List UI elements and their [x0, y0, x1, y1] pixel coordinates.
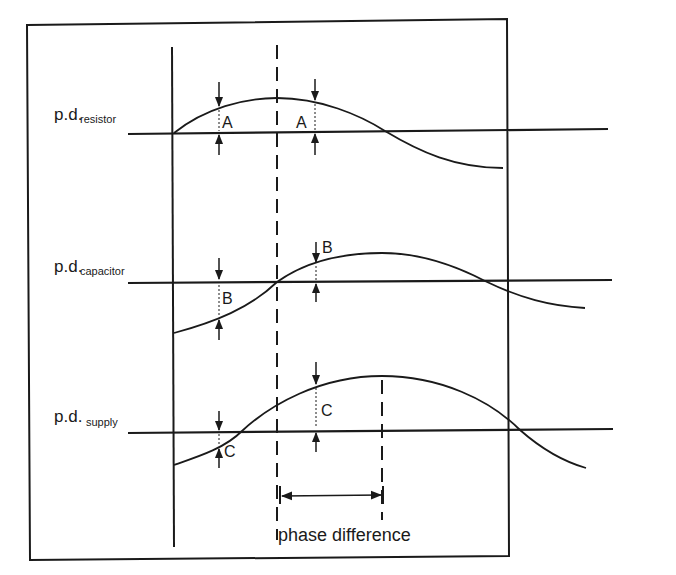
origin-axis — [172, 47, 174, 547]
double-arrow-icon — [282, 495, 381, 496]
baseline-supply — [128, 429, 613, 433]
marker-a-right-label: A — [296, 114, 307, 131]
marker-a-left-label: A — [222, 114, 233, 131]
baseline-resistor — [128, 129, 608, 134]
phase-difference-label: phase difference — [278, 525, 411, 545]
curve-capacitor — [174, 253, 585, 333]
label-capacitor-main: p.d. — [54, 257, 82, 276]
marker-c-right-label: C — [321, 402, 333, 419]
phase-difference-annotation: phase difference — [278, 486, 411, 545]
label-supply-main: p.d. — [54, 407, 82, 426]
phase-difference-diagram: p.d. resistor A A p.d. capacitor B B p.d… — [0, 0, 676, 575]
trace-supply: p.d. supply C C — [54, 362, 613, 468]
trace-capacitor: p.d. capacitor B B — [54, 239, 612, 340]
label-resistor-sub: resistor — [80, 113, 116, 125]
marker-b-right-label: B — [322, 239, 333, 256]
marker-b-left-label: B — [222, 290, 233, 307]
marker-c-left-label: C — [224, 443, 236, 460]
trace-resistor: p.d. resistor A A — [54, 79, 608, 168]
label-capacitor-sub: capacitor — [80, 265, 125, 277]
curve-supply — [174, 376, 586, 468]
label-resistor-main: p.d. — [54, 105, 82, 124]
label-supply-sub: supply — [86, 416, 118, 428]
baseline-capacitor — [128, 280, 612, 283]
